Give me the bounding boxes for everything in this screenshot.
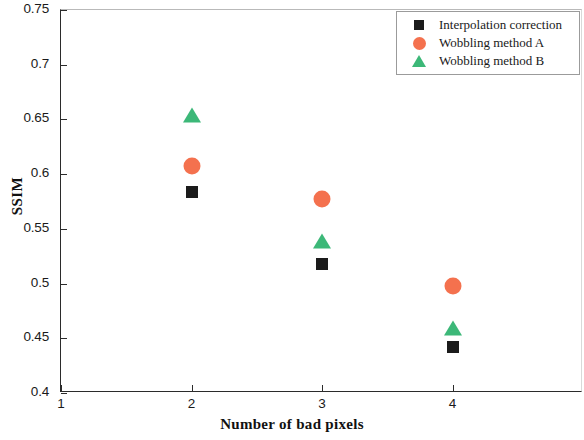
y-axis-tick-label: 0.7 bbox=[31, 56, 49, 71]
y-axis-tick bbox=[61, 393, 67, 394]
y-axis-tick bbox=[61, 174, 67, 175]
legend-square-icon bbox=[403, 20, 435, 30]
y-axis-tick-label: 0.65 bbox=[24, 110, 49, 125]
y-axis-tick bbox=[61, 338, 67, 339]
data-point-marker bbox=[447, 341, 459, 353]
legend-triangle-icon bbox=[403, 55, 435, 67]
y-axis-title: SSIM bbox=[9, 177, 26, 215]
legend-item-label: Wobbling method B bbox=[435, 53, 544, 69]
legend-circle-icon bbox=[403, 37, 435, 50]
data-point-marker bbox=[444, 277, 461, 294]
y-axis-tick-label: 0.5 bbox=[31, 275, 49, 290]
x-axis-tick bbox=[322, 385, 323, 391]
y-axis-tick-label: 0.55 bbox=[24, 220, 49, 235]
data-point-marker bbox=[313, 233, 331, 248]
x-axis-tick bbox=[61, 385, 62, 391]
y-axis-tick-label: 0.75 bbox=[24, 1, 49, 16]
y-axis-tick bbox=[61, 229, 67, 230]
data-point-marker bbox=[183, 107, 201, 122]
data-point-marker bbox=[314, 191, 331, 208]
y-axis-tick-label: 0.6 bbox=[31, 165, 49, 180]
x-axis-tick-label: 3 bbox=[302, 396, 342, 411]
x-axis-tick bbox=[453, 385, 454, 391]
legend-item-label: Wobbling method A bbox=[435, 35, 544, 51]
y-axis-tick bbox=[61, 10, 67, 11]
legend-item: Wobbling method B bbox=[397, 52, 579, 70]
y-axis-tick bbox=[61, 119, 67, 120]
data-point-marker bbox=[444, 321, 462, 336]
x-axis-tick-label: 4 bbox=[433, 396, 473, 411]
data-point-marker bbox=[316, 258, 328, 270]
data-point-marker bbox=[186, 186, 198, 198]
x-axis-tick bbox=[192, 385, 193, 391]
chart-legend: Interpolation correctionWobbling method … bbox=[396, 11, 580, 75]
y-axis-tick bbox=[61, 284, 67, 285]
x-axis-title: Number of bad pixels bbox=[0, 416, 584, 433]
data-point-marker bbox=[183, 158, 200, 175]
y-axis-tick-label: 0.45 bbox=[24, 329, 49, 344]
scatter-chart-figure: 0.40.450.50.550.60.650.70.751234 SSIM Nu… bbox=[0, 0, 584, 440]
x-axis-tick-label: 1 bbox=[41, 396, 81, 411]
x-axis-tick-label: 2 bbox=[172, 396, 212, 411]
legend-item-label: Interpolation correction bbox=[435, 17, 562, 33]
legend-item: Wobbling method A bbox=[397, 34, 579, 52]
legend-item: Interpolation correction bbox=[397, 16, 579, 34]
y-axis-tick bbox=[61, 65, 67, 66]
